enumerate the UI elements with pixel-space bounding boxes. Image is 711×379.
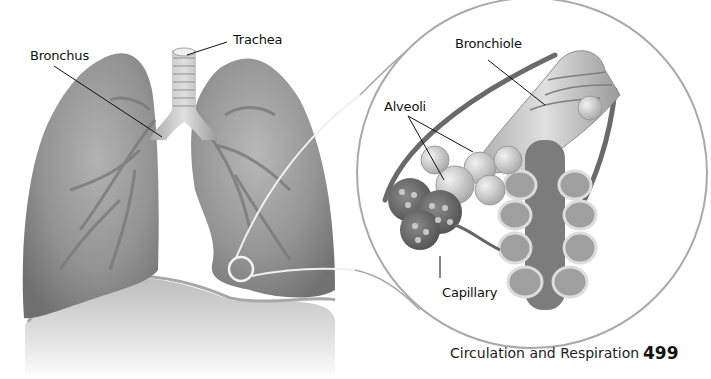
label-bronchus: Bronchus bbox=[30, 48, 89, 63]
magnified-view bbox=[357, 0, 707, 348]
label-bronchiole: Bronchiole bbox=[455, 36, 522, 51]
label-alveoli: Alveoli bbox=[384, 99, 426, 114]
label-capillary: Capillary bbox=[442, 285, 497, 300]
lungs-figure: Trachea Bronchus Bronchiole Alveoli Capi… bbox=[0, 0, 711, 379]
label-trachea: Trachea bbox=[233, 32, 282, 47]
left-lung bbox=[191, 58, 335, 297]
page-number: 499 bbox=[643, 343, 679, 363]
right-lung bbox=[23, 53, 159, 318]
lungs-illustration bbox=[0, 0, 711, 379]
chapter-title: Circulation and Respiration bbox=[450, 345, 639, 361]
